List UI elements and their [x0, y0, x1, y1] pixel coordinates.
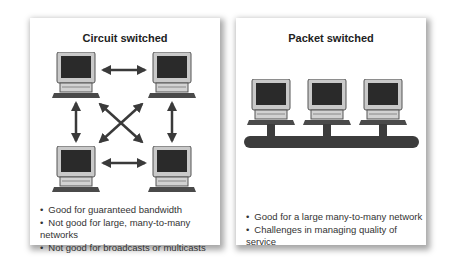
bullet-item: Good for guaranteed bandwidth [40, 204, 220, 217]
computer-icon [52, 52, 100, 98]
bullet-item: Good for a large many-to-many network [246, 211, 426, 224]
circuit-switched-panel: Circuit switched Good for guaranteed ban… [30, 18, 220, 245]
computer-icon [52, 146, 100, 192]
circuit-bullet-list: Good for guaranteed bandwidth Not good f… [40, 204, 220, 254]
network-bus [244, 136, 419, 148]
packet-switched-panel: Packet switched Good for a large many-to… [236, 18, 426, 245]
packet-bullet-list: Good for a large many-to-many network Ch… [246, 211, 426, 249]
packet-diagram [236, 18, 426, 208]
computer-icon [148, 146, 196, 192]
circuit-diagram [30, 18, 220, 208]
drop-cable [323, 124, 331, 138]
computer-icon [247, 79, 295, 125]
bullet-item: Challenges in managing quality of servic… [246, 224, 426, 249]
drop-cable [379, 124, 387, 138]
bullet-item: Not good for broadcasts or multicasts [40, 242, 220, 255]
computer-icon [359, 79, 407, 125]
bullet-item: Not good for large, many-to-many network… [40, 217, 220, 242]
computer-icon [303, 79, 351, 125]
computer-icon [148, 52, 196, 98]
drop-cable [267, 124, 275, 138]
